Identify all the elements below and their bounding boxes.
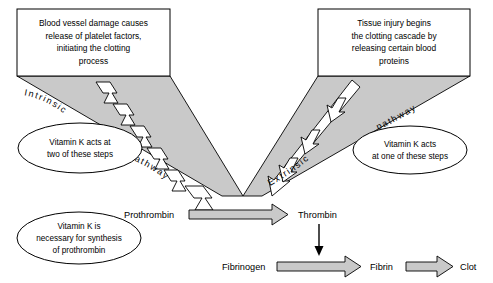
- diagram-canvas: Blood vessel damage causes release of pl…: [0, 0, 493, 283]
- thrombin-label: Thrombin: [298, 210, 337, 220]
- extrinsic-box-line-2: the clotting cascade by: [351, 31, 437, 41]
- extrinsic-note-line-2: at one of these steps: [372, 152, 448, 161]
- fibrin-label: Fibrin: [370, 262, 393, 272]
- prothrombin-note-line-3: of prothrombin: [53, 246, 106, 255]
- prothrombin-note-line-2: necessary for synthesis: [36, 234, 122, 243]
- extrinsic-vitamink-note: [353, 126, 467, 174]
- intrinsic-box-line-2: release of platelet factors,: [46, 31, 142, 41]
- intrinsic-vitamink-note: [18, 123, 142, 173]
- extrinsic-note-line-1: Vitamin K acts: [384, 140, 436, 149]
- clot-label: Clot: [460, 262, 477, 272]
- intrinsic-box-line-1: Blood vessel damage causes: [39, 18, 148, 28]
- extrinsic-box-line-4: proteins: [379, 56, 409, 66]
- fibrinogen-to-fibrin-arrow: [277, 256, 361, 277]
- prothrombin-label: Prothrombin: [124, 210, 174, 220]
- fibrin-to-clot-arrow: [406, 256, 453, 277]
- intrinsic-box-line-4: process: [79, 56, 108, 66]
- thrombin-down-arrow: [315, 224, 324, 256]
- extrinsic-box-line-3: releasing certain blood: [352, 43, 437, 53]
- prothrombin-note-line-1: Vitamin K is: [57, 222, 100, 231]
- intrinsic-note-line-2: two of these steps: [47, 150, 113, 159]
- clotting-cascade-diagram: Blood vessel damage causes release of pl…: [0, 0, 493, 283]
- extrinsic-box-line-1: Tissue injury begins: [357, 18, 431, 28]
- fibrinogen-label: Fibrinogen: [222, 262, 265, 272]
- intrinsic-box-line-3: initiating the clotting: [57, 43, 131, 53]
- intrinsic-note-line-1: Vitamin K acts at: [49, 138, 111, 147]
